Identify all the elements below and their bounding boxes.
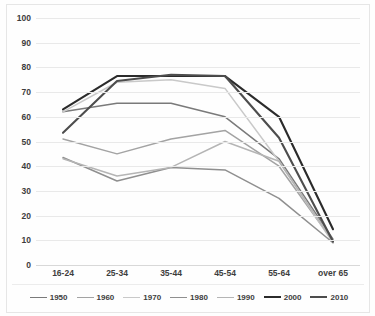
gridline-10	[36, 240, 360, 241]
legend-swatch-2000	[264, 296, 281, 298]
gridline-30	[36, 191, 360, 192]
y-axis-tick-0: 0	[26, 260, 31, 270]
x-axis-tick-55-64: 55-64	[252, 268, 306, 282]
gridline-90	[36, 43, 360, 44]
y-axis-tick-100: 100	[17, 13, 31, 23]
legend-swatch-1970	[123, 297, 140, 298]
x-axis-labels: 16-2425-3435-4445-5455-64over 65	[36, 268, 360, 282]
legend-item-1970[interactable]: 1970	[123, 293, 161, 302]
legend-label-2000: 2000	[284, 293, 302, 302]
series-line-1980	[63, 158, 333, 243]
y-axis-tick-50: 50	[22, 137, 31, 147]
y-axis-tick-80: 80	[22, 62, 31, 72]
y-axis-tick-20: 20	[22, 211, 31, 221]
legend-label-1990: 1990	[237, 293, 255, 302]
legend-label-1960: 1960	[97, 293, 115, 302]
chart-legend: 1950196019701980199020002010	[14, 290, 364, 304]
x-axis-tick-35-44: 35-44	[144, 268, 198, 282]
legend-swatch-1960	[77, 297, 94, 298]
gridline-70	[36, 92, 360, 93]
x-axis-tick-over-65: over 65	[306, 268, 360, 282]
chart-container: 0102030405060708090100 16-2425-3435-4445…	[0, 0, 375, 316]
x-axis-tick-45-54: 45-54	[198, 268, 252, 282]
gridline-0	[36, 265, 360, 266]
legend-item-2010[interactable]: 2010	[310, 293, 348, 302]
y-axis-tick-70: 70	[22, 87, 31, 97]
y-axis-tick-30: 30	[22, 186, 31, 196]
gridline-80	[36, 67, 360, 68]
gridline-20	[36, 216, 360, 217]
y-axis-tick-90: 90	[22, 38, 31, 48]
legend-label-1950: 1950	[50, 293, 68, 302]
legend-swatch-1950	[30, 297, 47, 298]
y-axis-tick-40: 40	[22, 161, 31, 171]
x-axis-tick-16-24: 16-24	[36, 268, 90, 282]
x-axis-tick-25-34: 25-34	[90, 268, 144, 282]
legend-swatch-2010	[310, 296, 327, 298]
legend-swatch-1990	[217, 297, 234, 298]
series-line-1970	[63, 80, 333, 243]
legend-item-1960[interactable]: 1960	[77, 293, 115, 302]
gridline-60	[36, 117, 360, 118]
legend-item-2000[interactable]: 2000	[264, 293, 302, 302]
legend-item-1950[interactable]: 1950	[30, 293, 68, 302]
legend-swatch-1980	[170, 297, 187, 298]
plot-area: 0102030405060708090100	[36, 18, 360, 265]
legend-item-1980[interactable]: 1980	[170, 293, 208, 302]
y-axis-tick-10: 10	[22, 235, 31, 245]
gridline-50	[36, 142, 360, 143]
y-axis-tick-60: 60	[22, 112, 31, 122]
gridline-40	[36, 166, 360, 167]
legend-label-2010: 2010	[330, 293, 348, 302]
legend-separator	[12, 284, 364, 285]
gridline-100	[36, 18, 360, 19]
legend-item-1990[interactable]: 1990	[217, 293, 255, 302]
legend-label-1970: 1970	[143, 293, 161, 302]
legend-label-1980: 1980	[190, 293, 208, 302]
series-line-2000	[63, 76, 333, 229]
